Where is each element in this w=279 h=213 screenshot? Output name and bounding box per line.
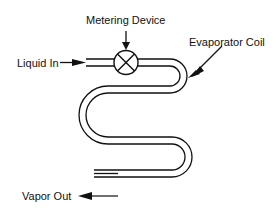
vapor-out-arrow-icon: [78, 192, 172, 200]
metering-device-valve-icon: [114, 51, 138, 75]
evaporator-coil-tube: [79, 59, 192, 177]
metering-device-arrow-icon: [122, 31, 130, 50]
evaporator-diagram-graphic: [0, 0, 279, 213]
liquid-in-arrow-icon: [60, 59, 86, 66]
vapor-out-label: Vapor Out: [22, 190, 71, 202]
evaporator-coil-arrow-icon: [188, 46, 222, 78]
metering-device-label: Metering Device: [86, 14, 165, 26]
evaporator-coil-label: Evaporator Coil: [189, 36, 265, 48]
liquid-in-label: Liquid In: [17, 57, 59, 69]
